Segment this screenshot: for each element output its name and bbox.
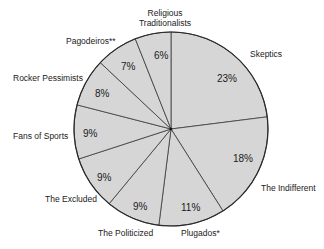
label-politicized: The Politicized [98, 228, 154, 238]
pct-skeptics: 23% [217, 73, 237, 84]
pct-pagodeiros: 7% [121, 61, 136, 72]
pie-center-dot [170, 128, 173, 131]
label-rocker: Rocker Pessimists [13, 73, 83, 83]
pct-politicized: 9% [133, 201, 148, 212]
label-sports: Fans of Sports [13, 131, 68, 141]
label-religious-2: Traditionalists [139, 18, 191, 28]
pct-indifferent: 18% [233, 153, 253, 164]
label-skeptics: Skeptics [250, 49, 282, 59]
label-pagodeiros: Pagodeiros** [66, 36, 116, 46]
pie-chart: Religious Traditionalists Pagodeiros** S… [0, 0, 324, 249]
label-excluded: The Excluded [45, 194, 97, 204]
pct-rocker: 8% [95, 88, 110, 99]
pct-plugados: 11% [181, 202, 200, 213]
label-religious: Religious [148, 8, 183, 18]
pct-sports: 9% [83, 128, 98, 139]
pct-religious: 6% [154, 50, 169, 61]
label-indifferent: The Indifferent [261, 183, 316, 193]
pct-excluded: 9% [97, 172, 112, 183]
label-plugados: Plugados* [181, 228, 220, 238]
